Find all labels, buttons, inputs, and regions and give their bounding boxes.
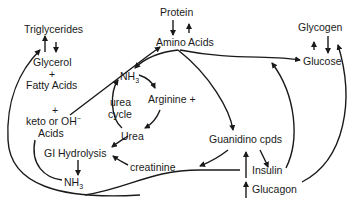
- node-gi-hydrolysis: GI Hydrolysis: [44, 147, 106, 159]
- node-glucose: Glucose: [303, 55, 342, 67]
- node-fatty-acids: Fatty Acids: [26, 79, 77, 91]
- node-urea-cycle-1: urea: [110, 96, 131, 108]
- node-arginine: Arginine +: [148, 93, 196, 105]
- node-acids: Acids: [38, 127, 64, 139]
- node-glycerol: Glycerol: [33, 56, 72, 68]
- node-glucagon: Glucagon: [252, 183, 297, 195]
- node-nh3-top: NH3: [120, 70, 139, 82]
- node-glycogen: Glycogen: [298, 21, 342, 33]
- node-triglycerides: Triglycerides: [24, 23, 83, 35]
- node-protein: Protein: [160, 6, 193, 18]
- node-insulin: Insulin: [252, 164, 282, 176]
- node-creatinine: creatinine: [130, 161, 176, 173]
- node-keto-acids: keto or OH−: [26, 115, 81, 127]
- node-urea-cycle-2: cycle: [108, 108, 132, 120]
- node-nh3-bottom: NH3: [64, 176, 83, 188]
- node-guanidino-cpds: Guanidino cpds: [209, 133, 282, 145]
- node-amino-acids: Amino Acids: [156, 36, 214, 48]
- node-urea: Urea: [121, 130, 144, 142]
